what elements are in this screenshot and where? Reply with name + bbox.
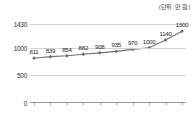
x-axis-tick xyxy=(149,102,150,105)
gridline xyxy=(30,75,186,76)
x-axis-tick xyxy=(166,102,167,105)
unit-caption: (단위: 만 원) xyxy=(159,2,190,11)
data-point-label: 1300 xyxy=(176,21,189,28)
x-axis-tick xyxy=(100,102,101,105)
plot-area: 0500100014302011201220132014201520162017… xyxy=(30,24,186,103)
data-point-marker xyxy=(65,54,69,58)
x-axis-tick xyxy=(50,102,51,105)
data-point-label: 1140 xyxy=(159,30,171,37)
line-chart: (단위: 만 원) 050010001430201120122013201420… xyxy=(0,0,194,127)
x-axis-tick xyxy=(83,102,84,105)
data-point-marker xyxy=(49,55,53,59)
x-axis-tick xyxy=(133,102,134,105)
x-axis-tick xyxy=(116,102,117,105)
gridline xyxy=(30,24,186,25)
x-axis-tick xyxy=(182,102,183,105)
data-point-label: 1000 xyxy=(143,38,156,45)
data-point-label: 882 xyxy=(79,44,88,51)
y-axis-label: 1000 xyxy=(14,44,27,51)
data-point-label: 839 xyxy=(46,47,55,54)
y-axis-label: 1430 xyxy=(14,21,27,28)
data-point-marker xyxy=(98,51,102,55)
x-axis-tick xyxy=(67,102,68,105)
data-point-label: 854 xyxy=(62,46,71,53)
x-axis-tick xyxy=(34,102,35,105)
data-point-label: 908 xyxy=(95,43,104,50)
y-axis-label: 500 xyxy=(17,72,27,79)
data-point-label: 811 xyxy=(30,48,39,55)
x-axis-line xyxy=(30,102,186,103)
data-point-marker xyxy=(32,56,36,60)
data-point-marker xyxy=(114,49,118,53)
data-point-marker xyxy=(81,52,85,56)
y-axis-label: 0 xyxy=(24,100,27,107)
data-point-label: 935 xyxy=(112,41,121,48)
data-point-label: 970 xyxy=(128,39,137,46)
